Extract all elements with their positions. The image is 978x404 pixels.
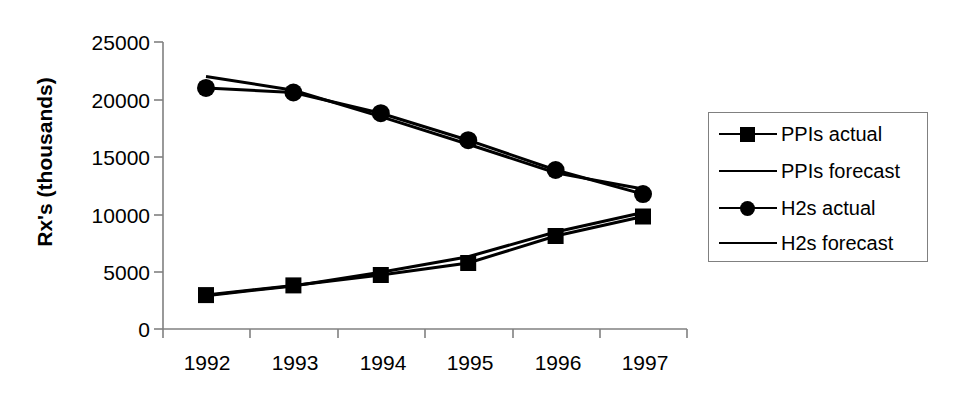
legend-marker-circle-icon bbox=[717, 197, 779, 219]
legend-item-h2s-actual[interactable]: H2s actual bbox=[709, 189, 927, 226]
legend-label-h2s-forecast: H2s forecast bbox=[781, 233, 893, 253]
legend: PPIs actual PPIs forecast H2s actual H2s… bbox=[708, 112, 928, 262]
legend-line-icon bbox=[717, 232, 779, 254]
legend-label-h2s-actual: H2s actual bbox=[781, 198, 876, 218]
legend-marker-square-icon bbox=[717, 123, 779, 145]
legend-label-ppis-forecast: PPIs forecast bbox=[781, 161, 900, 181]
legend-label-ppis-actual: PPIs actual bbox=[781, 124, 882, 144]
series-line bbox=[206, 76, 643, 188]
series-line bbox=[206, 213, 643, 296]
data-point-circle-marker bbox=[197, 79, 215, 97]
legend-item-h2s-forecast[interactable]: H2s forecast bbox=[709, 224, 927, 261]
legend-line-icon bbox=[717, 160, 779, 182]
data-point-square-marker bbox=[373, 267, 389, 283]
legend-item-ppis-forecast[interactable]: PPIs forecast bbox=[709, 152, 927, 189]
chart-figure: Rx's (thousands) 25000 20000 15000 10000… bbox=[0, 0, 978, 404]
series-layer bbox=[197, 76, 652, 303]
legend-item-ppis-actual[interactable]: PPIs actual bbox=[709, 115, 927, 152]
data-point-square-marker bbox=[635, 209, 651, 225]
